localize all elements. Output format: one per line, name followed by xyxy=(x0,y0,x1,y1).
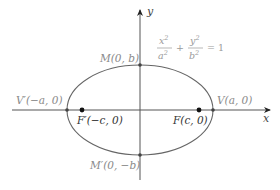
svg-text:a2: a2 xyxy=(158,49,168,61)
label-V: V(a, 0) xyxy=(217,94,252,106)
label-F: F(c, 0) xyxy=(172,114,208,126)
label-F-prime: F′(−c, 0) xyxy=(76,114,123,126)
label-M: M(0, b) xyxy=(99,52,139,64)
svg-text:y2: y2 xyxy=(189,34,200,46)
svg-text:b2: b2 xyxy=(189,49,199,61)
svg-text:x2: x2 xyxy=(159,34,169,46)
label-V-prime: V′(−a, 0) xyxy=(16,94,63,106)
svg-text:+: + xyxy=(176,42,184,53)
point-M-prime xyxy=(138,153,142,157)
point-V-prime xyxy=(65,108,69,112)
svg-text:= 1: = 1 xyxy=(207,42,224,53)
x-axis-label: x xyxy=(263,112,270,125)
focus-F-prime xyxy=(80,108,85,113)
focus-F xyxy=(197,108,202,113)
y-axis-label: y xyxy=(146,5,154,18)
label-M-prime: M′(0, −b) xyxy=(89,159,140,171)
point-V xyxy=(211,108,215,112)
ellipse-equation: x2 a2 + y2 b2 = 1 xyxy=(157,34,224,61)
ellipse-diagram: y x M(0, b) M′(0, −b) V(a, 0) V′(−a, 0) … xyxy=(0,0,280,190)
